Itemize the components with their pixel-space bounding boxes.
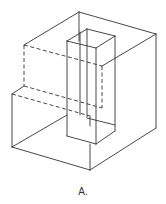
solid-edge (79, 12, 156, 34)
box-with-column-diagram (0, 0, 166, 204)
solid-edge (12, 86, 24, 94)
solid-edge (87, 29, 115, 36)
solid-edge (87, 118, 115, 125)
hidden-edge (24, 86, 102, 108)
solid-edge (96, 36, 115, 48)
solid-edges (12, 12, 156, 170)
solid-edge (90, 128, 156, 170)
solid-edge (12, 147, 90, 170)
solid-edge (12, 115, 67, 147)
solid-edge (67, 29, 87, 41)
hidden-edge (12, 94, 90, 116)
figure-caption: A. (0, 186, 166, 197)
solid-edge (67, 136, 96, 144)
hidden-edge (24, 45, 102, 66)
solid-edge (24, 12, 79, 45)
hidden-edges (12, 45, 102, 116)
solid-edge (96, 131, 115, 144)
solid-edge (67, 41, 96, 48)
